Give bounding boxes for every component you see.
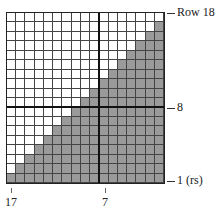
chart-cell [109, 174, 118, 183]
chart-cell [62, 174, 71, 183]
chart-cell [81, 13, 90, 22]
chart-cell [25, 51, 34, 60]
chart-cell [127, 126, 136, 135]
chart-cell [118, 136, 127, 145]
chart-cell [136, 145, 145, 154]
chart-cell [99, 13, 108, 22]
chart-cell [127, 117, 136, 126]
chart-cell [7, 117, 16, 126]
stitch-17-label: 17 [4, 196, 18, 208]
chart-cell [127, 145, 136, 154]
chart-cell [35, 136, 44, 145]
chart-cell [81, 41, 90, 50]
chart-cell [35, 164, 44, 173]
row-18-label: Row 18 [167, 6, 215, 18]
chart-cell [99, 79, 108, 88]
chart-cell [16, 32, 25, 41]
chart-cell [35, 107, 44, 116]
chart-cell [155, 13, 164, 22]
chart-cell [155, 70, 164, 79]
chart-cell [81, 164, 90, 173]
chart-cell [16, 117, 25, 126]
chart-cell [25, 107, 34, 116]
chart-cell [146, 32, 155, 41]
chart-cell [109, 155, 118, 164]
chart-cell [16, 136, 25, 145]
chart-cell [146, 136, 155, 145]
chart-cell [7, 22, 16, 31]
chart-cell [62, 60, 71, 69]
chart-cell [16, 164, 25, 173]
chart-cell [109, 51, 118, 60]
chart-cell [35, 41, 44, 50]
chart-cell [53, 22, 62, 31]
chart-cell [25, 32, 34, 41]
chart-cell [146, 13, 155, 22]
chart-cell [146, 89, 155, 98]
chart-cell [16, 155, 25, 164]
chart-cell [155, 117, 164, 126]
chart-cell [72, 145, 81, 154]
chart-cell [99, 145, 108, 154]
chart-cell [62, 136, 71, 145]
chart-cell [81, 117, 90, 126]
chart-cell [109, 164, 118, 173]
chart-cell [7, 32, 16, 41]
chart-cell [81, 136, 90, 145]
chart-cell [44, 145, 53, 154]
chart-cell [109, 60, 118, 69]
chart-cell [155, 89, 164, 98]
chart-cell [7, 145, 16, 154]
chart-cell [72, 126, 81, 135]
chart-cell [53, 79, 62, 88]
chart-cell [118, 155, 127, 164]
chart-cell [72, 117, 81, 126]
chart-cell [25, 174, 34, 183]
chart-cell [136, 13, 145, 22]
chart-cell [155, 164, 164, 173]
chart-cell [99, 89, 108, 98]
chart-cell [44, 32, 53, 41]
chart-cell [44, 155, 53, 164]
chart-cell [72, 136, 81, 145]
chart-cell [25, 60, 34, 69]
chart-cell [127, 60, 136, 69]
chart-cell [109, 136, 118, 145]
chart-cell [155, 107, 164, 116]
chart-cell [35, 70, 44, 79]
chart-cell [44, 13, 53, 22]
chart-cell [44, 164, 53, 173]
chart-cell [7, 126, 16, 135]
chart-cell [25, 145, 34, 154]
chart-cell [25, 164, 34, 173]
chart-cell [118, 164, 127, 173]
chart-cell [53, 41, 62, 50]
chart-cell [62, 51, 71, 60]
chart-cell [35, 155, 44, 164]
chart-cell [99, 51, 108, 60]
chart-cell [81, 174, 90, 183]
chart-cell [25, 155, 34, 164]
chart-cell [136, 22, 145, 31]
chart-cell [146, 164, 155, 173]
chart-cell [62, 155, 71, 164]
chart-cell [7, 51, 16, 60]
chart-cell [146, 70, 155, 79]
chart-cell [25, 117, 34, 126]
chart-cell [25, 22, 34, 31]
chart-cell [127, 70, 136, 79]
chart-cell [155, 155, 164, 164]
chart-cell [62, 164, 71, 173]
chart-cell [136, 136, 145, 145]
chart-cell [127, 107, 136, 116]
chart-cell [136, 117, 145, 126]
chart-cell [7, 174, 16, 183]
chart-cell [127, 13, 136, 22]
chart-cell [7, 89, 16, 98]
chart-cell [53, 60, 62, 69]
chart-cell [7, 107, 16, 116]
heavy-row-divider [7, 106, 164, 108]
chart-cell [7, 70, 16, 79]
chart-cell [16, 41, 25, 50]
chart-cell [155, 51, 164, 60]
